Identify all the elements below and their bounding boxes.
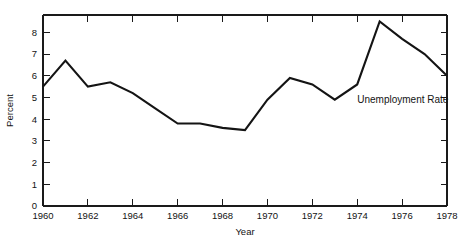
unemployment-rate-chart: 012345678 196019621964196619681970197219… — [0, 0, 466, 252]
x-tick-label: 1968 — [212, 210, 233, 221]
y-tick-label: 8 — [32, 27, 37, 38]
x-tick-label: 1976 — [392, 210, 413, 221]
chart-canvas: 012345678 196019621964196619681970197219… — [0, 0, 466, 252]
y-tick-label: 3 — [32, 135, 37, 146]
x-tick-label: 1970 — [257, 210, 278, 221]
y-axis-ticks-right — [441, 32, 448, 206]
y-axis-tick-labels: 012345678 — [32, 27, 37, 212]
x-tick-label: 1960 — [32, 210, 53, 221]
y-axis-title: Percent — [4, 94, 15, 127]
x-axis-ticks-top — [43, 15, 447, 22]
x-axis-ticks — [43, 199, 447, 206]
series-annotation-group: Unemployment Rate — [357, 94, 449, 105]
x-tick-label: 1964 — [122, 210, 143, 221]
y-tick-label: 2 — [32, 157, 37, 168]
x-tick-label: 1974 — [347, 210, 368, 221]
x-tick-label: 1978 — [436, 210, 457, 221]
x-axis-title: Year — [235, 226, 254, 237]
y-tick-label: 4 — [32, 114, 37, 125]
data-line-unemployment-rate — [43, 22, 447, 131]
plot-frame — [43, 15, 447, 206]
y-tick-label: 7 — [32, 48, 37, 59]
x-axis-tick-labels: 1960196219641966196819701972197419761978 — [32, 210, 457, 221]
x-tick-label: 1962 — [77, 210, 98, 221]
y-axis-ticks — [43, 32, 50, 206]
y-tick-label: 6 — [32, 70, 37, 81]
data-series-group — [43, 22, 447, 131]
x-tick-label: 1972 — [302, 210, 323, 221]
y-tick-label: 1 — [32, 179, 37, 190]
series-annotation-label: Unemployment Rate — [357, 94, 449, 105]
y-tick-label: 5 — [32, 92, 37, 103]
x-tick-label: 1966 — [167, 210, 188, 221]
